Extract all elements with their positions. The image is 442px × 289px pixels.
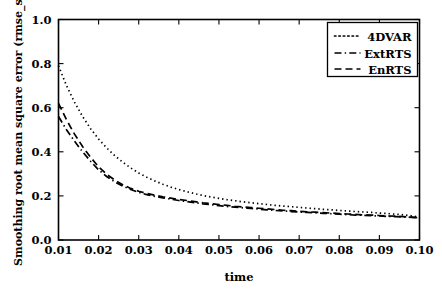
y-tick-label: 0.6 [31, 101, 51, 115]
x-tick-label: 0.06 [245, 243, 273, 257]
y-tick-label: 0.2 [31, 189, 51, 203]
y-tick-label: 0.0 [31, 233, 51, 247]
rmse-line-chart: 0.010.020.030.040.050.060.070.080.090.10… [0, 0, 442, 289]
x-tick-label: 0.02 [85, 243, 113, 257]
x-tick-label: 0.10 [405, 243, 433, 257]
chart-legend: 4DVARExtRTSEnRTS [328, 23, 418, 77]
y-axis-title: Smoothing root mean square error (rmse_s… [12, 0, 26, 266]
x-tick-label: 0.03 [125, 243, 153, 257]
x-tick-label: 0.07 [285, 243, 313, 257]
chart-figure: 0.010.020.030.040.050.060.070.080.090.10… [0, 0, 442, 289]
y-tick-label: 1.0 [31, 13, 51, 27]
legend-label-extrts: ExtRTS [364, 47, 411, 61]
x-tick-label: 0.09 [365, 243, 393, 257]
legend-label-enrts: EnRTS [368, 63, 411, 77]
y-tick-label: 0.4 [31, 145, 51, 159]
x-tick-label: 0.05 [205, 243, 233, 257]
y-tick-label: 0.8 [31, 57, 51, 71]
x-axis-title: time [224, 270, 253, 284]
x-tick-label: 0.08 [325, 243, 353, 257]
x-tick-label: 0.04 [165, 243, 193, 257]
legend-label-4dvar: 4DVAR [367, 30, 412, 44]
